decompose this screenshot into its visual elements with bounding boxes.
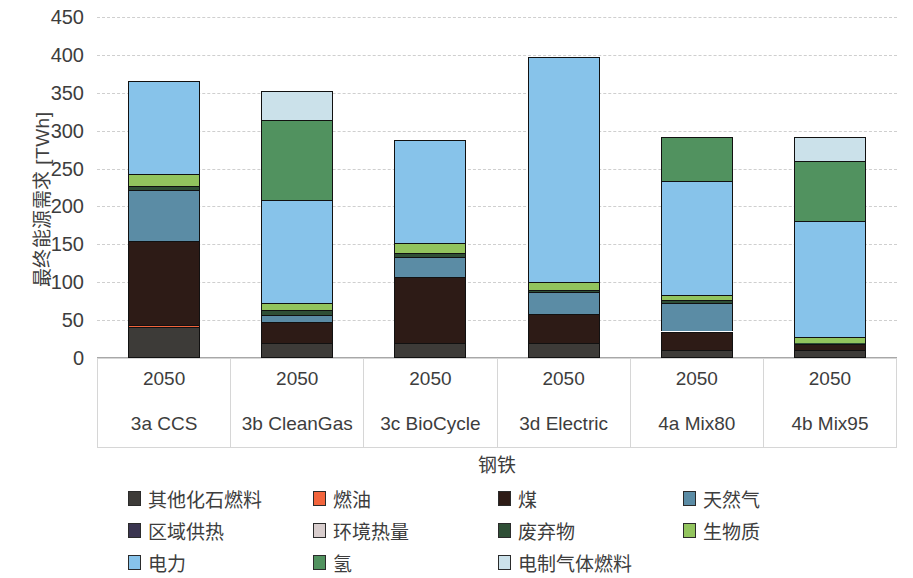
stacked-bar[interactable] xyxy=(794,137,866,358)
legend-swatch-icon xyxy=(683,523,696,538)
legend-swatch-icon xyxy=(498,523,511,538)
legend-item[interactable]: 生物质 xyxy=(683,514,868,546)
x-axis-year-label: 2050 xyxy=(631,358,763,400)
bar-segment[interactable] xyxy=(661,137,733,182)
stacked-bar-chart: 最终能源需求 [TWh] 450400350300250200150100500… xyxy=(0,0,913,578)
legend-item[interactable]: 天然气 xyxy=(683,482,868,514)
bar-segment[interactable] xyxy=(794,161,866,221)
stacked-bar[interactable] xyxy=(128,81,200,358)
legend-swatch-icon xyxy=(128,523,141,538)
x-axis-category-cell: 20504b Mix95 xyxy=(763,358,897,448)
legend-item[interactable]: 氢 xyxy=(313,546,498,578)
bar-segment[interactable] xyxy=(261,200,333,302)
legend-item[interactable]: 其他化石燃料 xyxy=(128,482,313,514)
bar-group xyxy=(230,17,363,358)
y-axis-tick-label: 250 xyxy=(30,157,84,180)
legend-item[interactable]: 废弃物 xyxy=(498,514,683,546)
y-axis-tick-label: 450 xyxy=(30,6,84,29)
y-axis-ticks: 450400350300250200150100500 xyxy=(22,17,84,358)
x-axis-category-cell: 20503c BioCycle xyxy=(363,358,496,448)
bar-segment[interactable] xyxy=(661,350,733,358)
x-axis-category-cell: 20503a CCS xyxy=(97,358,230,448)
bar-segment[interactable] xyxy=(528,57,600,282)
bar-segment[interactable] xyxy=(394,343,466,358)
bar-group xyxy=(97,17,230,358)
bar-group xyxy=(364,17,497,358)
x-axis-scenario-label: 3d Electric xyxy=(498,400,630,447)
bar-segment[interactable] xyxy=(261,322,333,343)
legend-swatch-icon xyxy=(498,555,511,570)
x-axis-scenario-label: 3c BioCycle xyxy=(364,400,496,447)
x-axis-group-title: 钢铁 xyxy=(97,450,897,477)
bar-group xyxy=(630,17,763,358)
x-axis-scenario-label: 4a Mix80 xyxy=(631,400,763,447)
bar-segment[interactable] xyxy=(794,137,866,161)
bar-segment[interactable] xyxy=(261,91,333,121)
legend-item-label: 氢 xyxy=(333,549,352,576)
bar-segment[interactable] xyxy=(394,277,466,343)
bar-segment[interactable] xyxy=(261,120,333,200)
bar-segment[interactable] xyxy=(528,290,600,292)
legend-swatch-icon xyxy=(683,491,696,506)
x-axis-year-label: 2050 xyxy=(498,358,630,400)
bar-segment[interactable] xyxy=(261,303,333,311)
legend-item-label: 电制气体燃料 xyxy=(518,549,632,576)
x-axis-year-label: 2050 xyxy=(364,358,496,400)
bar-segment[interactable] xyxy=(794,337,866,343)
bar-segment[interactable] xyxy=(394,243,466,254)
x-axis-scenario-label: 3a CCS xyxy=(98,400,230,447)
x-axis-scenario-label: 4b Mix95 xyxy=(764,400,896,447)
bar-segment[interactable] xyxy=(128,81,200,173)
y-axis-tick-label: 400 xyxy=(30,43,84,66)
legend-item[interactable]: 环境热量 xyxy=(313,514,498,546)
bar-segment[interactable] xyxy=(394,140,466,243)
y-axis-tick-label: 0 xyxy=(30,347,84,370)
legend-item[interactable]: 电制气体燃料 xyxy=(498,546,683,578)
x-axis-scenario-label: 3b CleanGas xyxy=(231,400,363,447)
bar-segment[interactable] xyxy=(661,181,733,295)
bar-segment[interactable] xyxy=(794,221,866,337)
legend-item-label: 区域供热 xyxy=(148,517,224,544)
legend-item[interactable]: 燃油 xyxy=(313,482,498,514)
stacked-bar[interactable] xyxy=(261,91,333,358)
x-axis-category-cell: 20504a Mix80 xyxy=(630,358,763,448)
bar-segment[interactable] xyxy=(661,332,733,350)
bar-segment[interactable] xyxy=(394,257,466,277)
y-axis-tick-label: 150 xyxy=(30,233,84,256)
bar-segment[interactable] xyxy=(528,343,600,358)
bar-segment[interactable] xyxy=(528,314,600,343)
bar-segment[interactable] xyxy=(128,186,200,190)
x-axis-category-table: 20503a CCS20503b CleanGas20503c BioCycle… xyxy=(97,358,897,448)
stacked-bar[interactable] xyxy=(394,140,466,358)
bar-segment[interactable] xyxy=(661,300,733,302)
bar-segment[interactable] xyxy=(128,174,200,186)
bar-segment[interactable] xyxy=(394,253,466,257)
legend-item[interactable]: 区域供热 xyxy=(128,514,313,546)
stacked-bar[interactable] xyxy=(661,137,733,358)
bar-segment[interactable] xyxy=(261,343,333,358)
legend-item[interactable]: 煤 xyxy=(498,482,683,514)
bar-segment[interactable] xyxy=(261,310,333,315)
legend-swatch-icon xyxy=(313,523,326,538)
legend-item-label: 环境热量 xyxy=(333,517,409,544)
bar-segment[interactable] xyxy=(528,282,600,290)
bar-segment[interactable] xyxy=(794,350,866,358)
bar-segment[interactable] xyxy=(128,241,200,326)
x-axis-year-label: 2050 xyxy=(231,358,363,400)
legend-item[interactable]: 电力 xyxy=(128,546,313,578)
bar-segment[interactable] xyxy=(128,190,200,241)
bar-group xyxy=(497,17,630,358)
legend-item-label: 其他化石燃料 xyxy=(148,485,262,512)
legend-item-label: 煤 xyxy=(518,485,537,512)
bar-segment[interactable] xyxy=(261,315,333,322)
legend-item-label: 燃油 xyxy=(333,485,371,512)
bar-segment[interactable] xyxy=(661,303,733,332)
legend-swatch-icon xyxy=(313,491,326,506)
bar-segment[interactable] xyxy=(528,292,600,314)
bar-segment[interactable] xyxy=(794,344,866,350)
stacked-bar[interactable] xyxy=(528,57,600,358)
bar-segment[interactable] xyxy=(661,295,733,300)
x-axis-year-label: 2050 xyxy=(98,358,230,400)
legend-swatch-icon xyxy=(128,491,141,506)
bar-segment[interactable] xyxy=(128,327,200,358)
